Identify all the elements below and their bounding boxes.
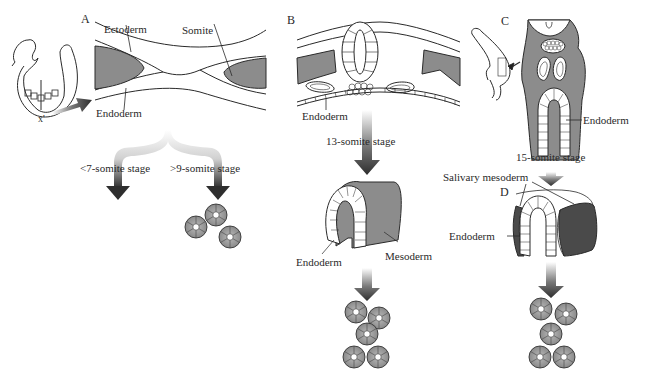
brace-split <box>114 130 222 188</box>
panel-d <box>507 182 597 298</box>
panel-label-b: B <box>287 14 295 26</box>
label-stage-gt9: >9-somite stage <box>170 162 240 174</box>
label-stage-15: 15-somite stage <box>516 151 585 163</box>
label-endoderm-d: Endoderm <box>449 230 495 242</box>
glands-a <box>185 204 241 248</box>
label-endoderm-c: Endoderm <box>583 114 629 126</box>
label-endoderm-b: Endoderm <box>302 110 348 122</box>
label-stage-lt7: <7-somite stage <box>80 162 150 174</box>
embryo-sketch-a <box>12 40 77 117</box>
label-ectoderm: Ectoderm <box>104 23 147 35</box>
label-stage-13: 13-somite stage <box>326 135 395 147</box>
arrowhead-a-right <box>206 186 230 200</box>
label-somite: Somite <box>182 24 213 36</box>
label-explant-endoderm-b: Endoderm <box>296 256 342 268</box>
label-section-plane: x' <box>38 113 45 125</box>
section-a <box>95 22 266 110</box>
glands-d <box>529 298 577 368</box>
explant-b <box>322 182 401 254</box>
diagram-canvas <box>0 0 647 382</box>
panel-label-d: D <box>500 186 509 198</box>
label-salivary-mesoderm: Salivary mesoderm <box>443 171 528 183</box>
arrow-d-1 <box>538 262 564 298</box>
arrow-c-1 <box>538 172 564 186</box>
arrowhead-a-left <box>106 186 130 200</box>
label-mesoderm-b: Mesoderm <box>385 250 432 262</box>
panel-label-a: A <box>81 13 90 25</box>
panel-label-c: C <box>501 15 509 27</box>
panel-a <box>12 22 266 248</box>
glands-b <box>343 301 390 368</box>
arrow-b-2 <box>354 268 380 301</box>
label-endoderm-a: Endoderm <box>96 107 142 119</box>
